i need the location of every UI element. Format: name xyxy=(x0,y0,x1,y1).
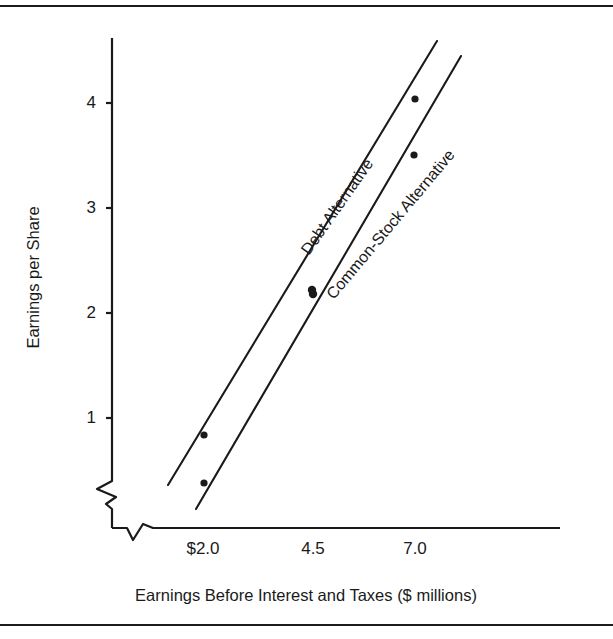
y-axis-tick-label-2: 2 xyxy=(62,304,96,321)
y-axis-tick-label-4: 4 xyxy=(62,94,96,111)
data-point-common-4-5 xyxy=(309,290,317,298)
data-point-common-2-0 xyxy=(200,479,207,486)
series-line-debt-alternative xyxy=(168,41,437,485)
x-axis-line xyxy=(112,524,560,540)
chart-page: 4 3 2 1 $2.0 4.5 7.0 Earnings per Share … xyxy=(0,0,613,639)
x-axis-tick-label-7-0: 7.0 xyxy=(370,540,460,557)
y-axis-break-mark xyxy=(97,468,116,528)
x-axis-title: Earnings Before Interest and Taxes ($ mi… xyxy=(56,586,556,605)
series-line-common-stock-alternative xyxy=(196,56,461,509)
y-axis-tick-label-1: 1 xyxy=(62,409,96,426)
series-markers-common-stock-alternative xyxy=(200,151,417,486)
series-markers-debt-alternative xyxy=(200,95,418,438)
x-axis-tick-label-2-0: $2.0 xyxy=(158,540,248,557)
y-axis-title: Earnings per Share xyxy=(24,183,43,373)
data-point-debt-7-0 xyxy=(411,95,418,102)
data-point-debt-2-0 xyxy=(200,431,207,438)
y-axis-tick-label-3: 3 xyxy=(62,199,96,216)
data-point-common-7-0 xyxy=(410,151,417,158)
x-axis-tick-label-4-5: 4.5 xyxy=(268,540,358,557)
